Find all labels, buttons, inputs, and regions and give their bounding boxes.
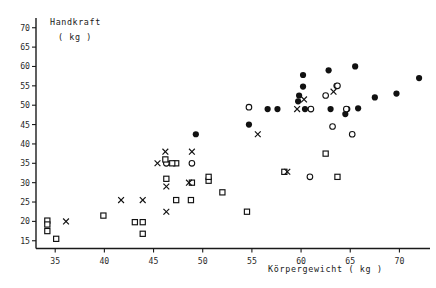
marker-cross xyxy=(301,96,307,102)
marker-cross xyxy=(118,197,124,203)
x-tick-label: 35 xyxy=(50,256,60,266)
marker-filled-circle xyxy=(302,106,308,112)
marker-filled-circle xyxy=(393,90,399,96)
scatter-plot: 1520253035404550556065703540455055606570… xyxy=(0,0,436,288)
marker-open-square xyxy=(45,222,50,227)
marker-open-circle xyxy=(323,93,329,99)
marker-filled-circle xyxy=(327,106,333,112)
marker-open-square xyxy=(188,197,193,202)
y-tick-label: 70 xyxy=(20,23,30,33)
y-tick-label: 50 xyxy=(20,100,30,110)
marker-cross xyxy=(63,218,69,224)
marker-cross xyxy=(162,149,168,155)
marker-cross xyxy=(155,160,161,166)
marker-open-circle xyxy=(189,160,195,166)
marker-open-square xyxy=(54,236,59,241)
marker-open-square xyxy=(220,190,225,195)
marker-filled-circle xyxy=(246,121,252,127)
marker-open-square xyxy=(45,228,50,233)
marker-filled-circle xyxy=(372,94,378,100)
y-tick-label: 20 xyxy=(20,216,30,226)
y-tick-label: 60 xyxy=(20,61,30,71)
y-axis-title-line2: ( kg ) xyxy=(58,32,92,42)
marker-open-square xyxy=(335,174,340,179)
y-tick-label: 25 xyxy=(20,197,30,207)
marker-open-square xyxy=(164,176,169,181)
marker-open-square xyxy=(101,213,106,218)
y-tick-label: 45 xyxy=(20,120,30,130)
y-tick-label: 40 xyxy=(20,139,30,149)
y-tick-label: 30 xyxy=(20,178,30,188)
marker-open-square xyxy=(140,231,145,236)
marker-open-square xyxy=(244,209,249,214)
data-marker-layer xyxy=(45,63,422,241)
marker-open-square xyxy=(163,157,168,162)
x-tick-label: 45 xyxy=(149,256,159,266)
x-tick-label: 70 xyxy=(394,256,404,266)
marker-open-square xyxy=(323,151,328,156)
chart-canvas: 1520253035404550556065703540455055606570… xyxy=(0,0,436,288)
marker-filled-circle xyxy=(355,105,361,111)
marker-filled-circle xyxy=(296,92,302,98)
marker-open-circle xyxy=(344,106,350,112)
y-tick-label: 65 xyxy=(20,42,30,52)
marker-open-square xyxy=(132,220,137,225)
y-tick-label: 15 xyxy=(20,236,30,246)
marker-open-square xyxy=(170,161,175,166)
marker-filled-circle xyxy=(352,63,358,69)
marker-cross xyxy=(140,197,146,203)
marker-filled-circle xyxy=(193,131,199,137)
marker-cross xyxy=(294,106,300,112)
marker-open-square xyxy=(174,197,179,202)
marker-open-circle xyxy=(308,106,314,112)
x-tick-label: 55 xyxy=(247,256,257,266)
marker-filled-circle xyxy=(300,84,306,90)
y-tick-label: 55 xyxy=(20,81,30,91)
marker-cross xyxy=(189,149,195,155)
marker-filled-circle xyxy=(326,67,332,73)
x-tick-label: 50 xyxy=(198,256,208,266)
x-axis-title: Körpergewicht ( kg ) xyxy=(268,264,383,274)
y-axis-title-line1: Handkraft xyxy=(50,17,101,27)
marker-filled-circle xyxy=(265,106,271,112)
marker-filled-circle xyxy=(300,72,306,78)
x-tick-label: 40 xyxy=(99,256,109,266)
marker-open-circle xyxy=(330,124,336,130)
marker-cross xyxy=(163,209,169,215)
marker-cross xyxy=(255,131,261,137)
marker-open-square xyxy=(206,174,211,179)
marker-cross xyxy=(331,89,337,95)
marker-filled-circle xyxy=(295,98,301,104)
marker-filled-circle xyxy=(274,106,280,112)
marker-open-circle xyxy=(246,104,252,110)
marker-cross xyxy=(163,184,169,190)
marker-open-circle xyxy=(349,131,355,137)
marker-open-circle xyxy=(307,174,313,180)
tick-label-layer: 1520253035404550556065703540455055606570 xyxy=(20,23,404,266)
tick-layer xyxy=(32,28,399,253)
marker-open-circle xyxy=(335,83,341,89)
axis-layer xyxy=(36,18,430,249)
marker-filled-circle xyxy=(416,75,422,81)
marker-open-square xyxy=(140,220,145,225)
y-tick-label: 35 xyxy=(20,158,30,168)
